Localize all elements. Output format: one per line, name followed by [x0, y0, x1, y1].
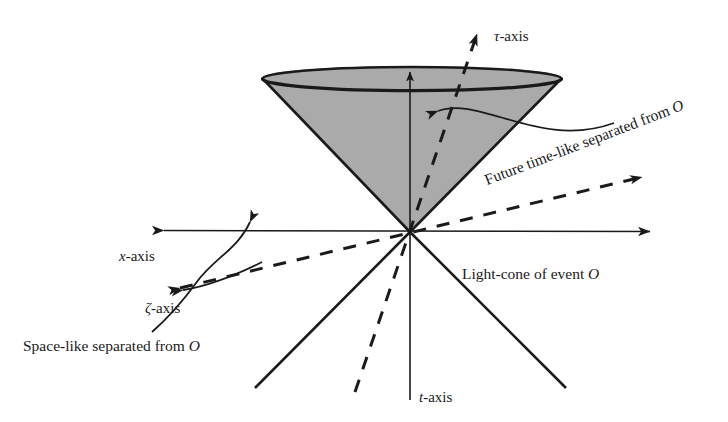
x-axis-label: x-axis [119, 249, 155, 264]
light-cone-annotation: Light-cone of event O [462, 266, 599, 282]
zeta-axis-label-suffix: -axis [151, 300, 180, 316]
space-like-text: Space-like separated from [23, 337, 189, 354]
diagram-canvas [0, 0, 728, 422]
x-axis-label-suffix: -axis [126, 248, 155, 264]
past-cone-left-line [255, 232, 410, 388]
past-cone-right-line [410, 232, 566, 388]
x-axis-shaft [164, 231, 650, 232]
t-axis-label-suffix: -axis [423, 389, 452, 405]
tau-axis-label-suffix: -axis [499, 28, 528, 44]
x-axis-label-symbol: x [119, 248, 126, 264]
x-axis-line [164, 231, 650, 232]
zeta-axis-label: ζ-axis [145, 301, 180, 316]
tau-axis-label: τ-axis [494, 29, 529, 44]
space-like-annotation: Space-like separated from O [23, 338, 200, 354]
space-like-event-symbol: O [189, 337, 200, 354]
t-axis-label: t-axis [419, 390, 452, 405]
light-cone-event-symbol: O [588, 265, 599, 282]
light-cone-text: Light-cone of event [462, 265, 588, 282]
lightcone-diagram: τ-axis x-axis ζ-axis t-axis Future time-… [0, 0, 728, 422]
